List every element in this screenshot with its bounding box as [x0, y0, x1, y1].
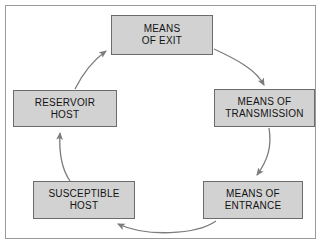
node-means-of-transmission[interactable]: MEANS OF TRANSMISSION — [214, 89, 315, 127]
arrow-susceptible-to-reservoir — [60, 133, 70, 181]
arrow-exit-to-transmission — [214, 49, 264, 85]
diagram-canvas: MEANS OF EXIT MEANS OF TRANSMISSION MEAN… — [0, 0, 328, 249]
node-label-line1: MEANS — [144, 23, 181, 35]
node-label-line2: HOST — [70, 200, 99, 212]
arrow-transmission-to-entrance — [257, 128, 270, 175]
node-means-of-entrance[interactable]: MEANS OF ENTRANCE — [203, 181, 303, 219]
arrow-reservoir-to-exit — [75, 51, 106, 89]
node-label-line1: MEANS OF — [226, 188, 280, 200]
arrow-entrance-to-susceptible — [118, 221, 216, 233]
node-label-line2: OF EXIT — [142, 35, 182, 47]
node-label-line2: ENTRANCE — [225, 200, 282, 212]
node-label-line1: RESERVOIR — [35, 97, 96, 109]
node-label-line2: TRANSMISSION — [225, 108, 304, 120]
node-reservoir-host[interactable]: RESERVOIR HOST — [13, 90, 117, 127]
node-label-line2: HOST — [51, 109, 80, 121]
node-label-line1: SUSCEPTIBLE — [48, 188, 119, 200]
node-label-line1: MEANS OF — [238, 96, 292, 108]
node-means-of-exit[interactable]: MEANS OF EXIT — [111, 15, 213, 55]
node-susceptible-host[interactable]: SUSCEPTIBLE HOST — [33, 181, 135, 219]
